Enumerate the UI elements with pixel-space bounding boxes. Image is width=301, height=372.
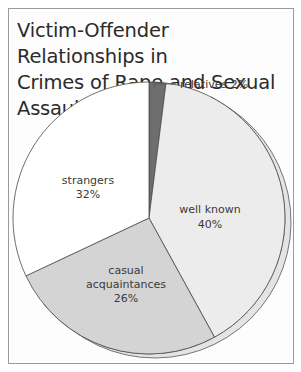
pie-slices [13,82,285,354]
label-strangers-name: strangers [62,174,115,187]
label-casual-line2: acquaintances [86,278,166,291]
pie-chart: relatives 2% strangers 32% well known 40… [0,0,301,372]
label-relatives: relatives 2% [180,78,248,91]
label-casual-pct: 26% [114,292,138,305]
label-strangers-pct: 32% [76,188,100,201]
label-well-known-name: well known [179,203,240,216]
label-casual-line1: casual [108,264,143,277]
label-well-known-pct: 40% [198,218,222,231]
